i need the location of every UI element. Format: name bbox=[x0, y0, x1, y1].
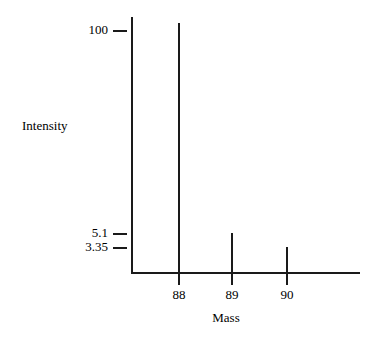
x-tick-label-89: 89 bbox=[212, 288, 252, 302]
peak-bar-89 bbox=[231, 233, 233, 273]
y-axis-line bbox=[131, 17, 133, 274]
x-tick-label-90: 90 bbox=[267, 288, 307, 302]
peak-bar-90 bbox=[286, 247, 288, 273]
y-tick-mark-3-35 bbox=[113, 247, 127, 249]
mass-spectrum-chart: 100 5.1 3.35 88 89 90 Intensity Mass bbox=[0, 0, 377, 343]
y-tick-label-100: 100 bbox=[89, 23, 109, 36]
peak-bar-88 bbox=[178, 23, 180, 273]
y-tick-mark-100 bbox=[113, 30, 127, 32]
x-axis-title: Mass bbox=[131, 310, 321, 325]
y-tick-mark-5-1 bbox=[113, 233, 127, 235]
y-tick-label-5-1: 5.1 bbox=[92, 226, 108, 239]
x-tick-mark-88 bbox=[178, 274, 180, 285]
x-tick-mark-90 bbox=[286, 274, 288, 285]
y-axis-title: Intensity bbox=[22, 118, 68, 133]
x-tick-label-88: 88 bbox=[159, 288, 199, 302]
x-tick-mark-89 bbox=[231, 274, 233, 285]
y-tick-label-3-35: 3.35 bbox=[85, 240, 108, 253]
x-axis-line bbox=[131, 272, 360, 274]
